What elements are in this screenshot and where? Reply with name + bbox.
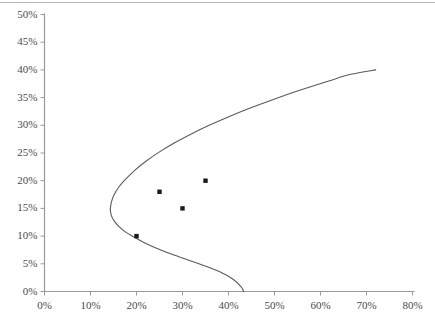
y-tick-label: 5% — [0, 257, 38, 269]
data-point-markers — [134, 179, 207, 239]
y-tick-label: 35% — [0, 91, 38, 103]
y-tick-label: 40% — [0, 63, 38, 75]
chart-container: 0%5%10%15%20%25%30%35%40%45%50% 0%10%20%… — [0, 0, 435, 323]
data-point-marker — [134, 234, 138, 238]
x-tick-label: 80% — [383, 299, 435, 311]
y-tick-label: 15% — [0, 201, 38, 213]
data-point-marker — [157, 190, 161, 194]
y-tick-label: 25% — [0, 146, 38, 158]
data-point-marker — [203, 179, 207, 183]
y-tick-label: 45% — [0, 35, 38, 47]
curve-efficient-frontier-upper — [110, 70, 375, 210]
frontier-curves — [110, 70, 375, 292]
axis-ticks — [41, 15, 413, 296]
y-tick-label: 0% — [0, 285, 38, 297]
curve-efficient-frontier-lower — [110, 210, 243, 292]
y-tick-label: 50% — [0, 8, 38, 20]
y-tick-label: 30% — [0, 118, 38, 130]
data-point-marker — [180, 206, 184, 210]
axes — [45, 14, 415, 292]
y-tick-label: 10% — [0, 229, 38, 241]
y-tick-label: 20% — [0, 174, 38, 186]
plot-area — [0, 0, 435, 323]
